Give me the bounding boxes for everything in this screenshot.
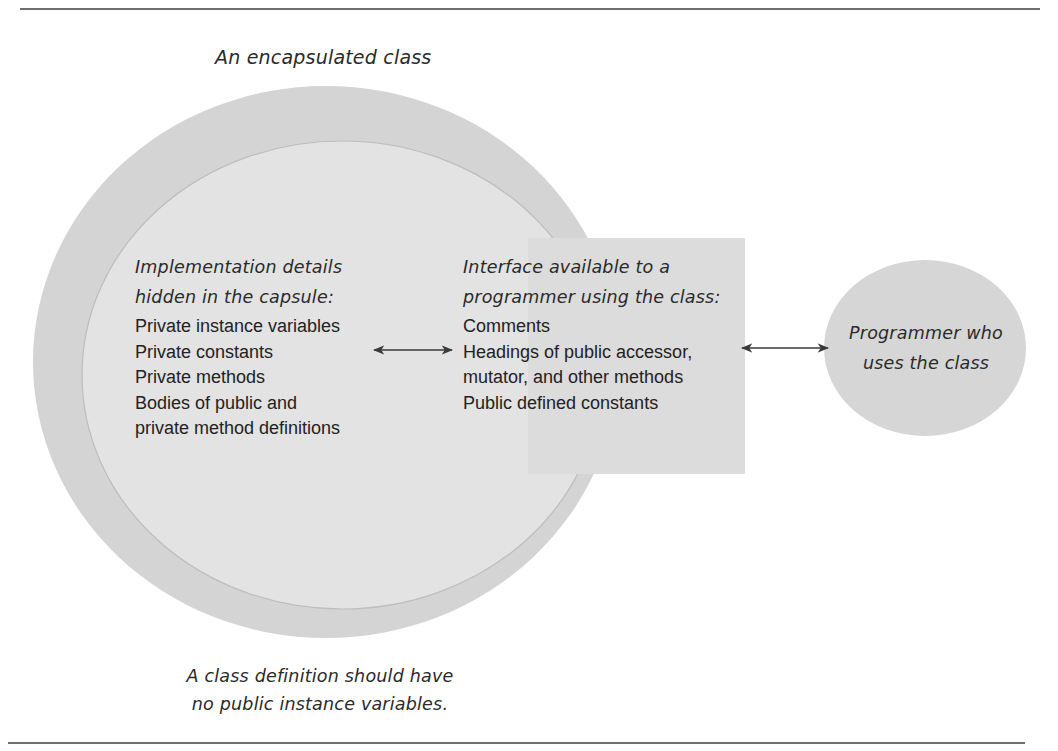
implementation-heading-line-2: hidden in the capsule: [135, 282, 342, 312]
implementation-block: Implementation details hidden in the cap… [135, 252, 342, 442]
programmer-label: Programmer who uses the class [835, 318, 1017, 378]
interface-item: Comments [463, 314, 721, 340]
programmer-label-line-1: Programmer who [835, 318, 1017, 348]
interface-heading-line-1: Interface available to a [463, 252, 721, 282]
interface-item: Public defined constants [463, 391, 721, 417]
interface-block: Interface available to a programmer usin… [463, 252, 721, 416]
caption: A class definition should have no public… [160, 662, 480, 718]
interface-heading-line-2: programmer using the class: [463, 282, 721, 312]
implementation-item: private method definitions [135, 416, 342, 442]
programmer-label-line-2: uses the class [835, 348, 1017, 378]
diagram-title: An encapsulated class [215, 46, 431, 68]
implementation-item: Private constants [135, 340, 342, 366]
interface-item: Headings of public accessor, [463, 340, 721, 366]
interface-item: mutator, and other methods [463, 365, 721, 391]
implementation-item: Bodies of public and [135, 391, 342, 417]
implementation-item: Private instance variables [135, 314, 342, 340]
implementation-heading-line-1: Implementation details [135, 252, 342, 282]
caption-line-2: no public instance variables. [160, 690, 480, 718]
caption-line-1: A class definition should have [160, 662, 480, 690]
implementation-item: Private methods [135, 365, 342, 391]
